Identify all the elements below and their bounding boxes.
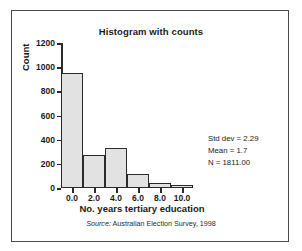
plot-area: 0 200 400 600 800 1000 bbox=[61, 43, 189, 188]
stat-mean: Mean = 1.7 bbox=[208, 145, 259, 157]
y-tick-label: 0 bbox=[50, 183, 55, 193]
stat-n: N = 1811.00 bbox=[208, 157, 259, 169]
x-tick-label: 2.0 bbox=[88, 193, 100, 203]
source-label: Source: bbox=[86, 219, 111, 228]
bar-bin-1 bbox=[61, 73, 83, 188]
figure-frame: Histogram with counts Count 0 200 400 60… bbox=[11, 10, 289, 242]
y-tick-label: 600 bbox=[41, 111, 55, 121]
x-tick-label: 6.0 bbox=[132, 193, 144, 203]
y-tick-label: 200 bbox=[41, 159, 55, 169]
x-tick-label: 8.0 bbox=[154, 193, 166, 203]
stat-std-dev: Std dev = 2.29 bbox=[208, 133, 259, 145]
x-tick-label: 4.0 bbox=[110, 193, 122, 203]
figure-root: Histogram with counts Count 0 200 400 60… bbox=[0, 0, 302, 251]
y-tick-label: 1200 bbox=[36, 38, 55, 48]
source-text: Australian Election Survey, 1998 bbox=[113, 219, 216, 228]
source-note: Source: Australian Election Survey, 1998 bbox=[12, 219, 290, 228]
y-tick-label: 400 bbox=[41, 135, 55, 145]
chart-title: Histogram with counts bbox=[12, 26, 290, 37]
bar-bin-4 bbox=[127, 174, 149, 189]
y-tick-label: 1000 bbox=[36, 62, 55, 72]
x-tick-label: 10.0 bbox=[174, 193, 191, 203]
y-tick-label: 800 bbox=[41, 86, 55, 96]
stats-annotation: Std dev = 2.29 Mean = 1.7 N = 1811.00 bbox=[208, 133, 259, 169]
bar-bin-3 bbox=[105, 148, 127, 189]
bar-bin-2 bbox=[83, 155, 105, 188]
x-axis-title: No. years tertiary education bbox=[42, 203, 242, 214]
x-tick-label: 0.0 bbox=[66, 193, 78, 203]
y-axis-title: Count bbox=[20, 44, 31, 71]
